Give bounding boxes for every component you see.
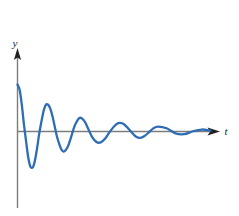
graph-canvas: y t xyxy=(0,0,239,216)
figure-background xyxy=(0,0,239,216)
y-axis-label: y xyxy=(12,37,18,49)
damped-oscillation-figure: y t xyxy=(0,0,239,216)
